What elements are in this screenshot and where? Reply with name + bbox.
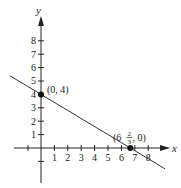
svg-text:2: 2 [128, 130, 132, 138]
svg-text:5: 5 [106, 152, 111, 163]
x-intercept-label: (6 2 3 , 0) [113, 130, 146, 146]
svg-text:6: 6 [119, 152, 124, 163]
y-intercept-point [38, 91, 44, 97]
svg-text:6: 6 [31, 62, 36, 73]
y-tick-labels: 1 2 3 4 5 6 7 8 [31, 35, 36, 140]
line-graph: x y 1 2 3 4 5 6 7 8 1 2 3 [0, 0, 181, 188]
svg-text:7: 7 [31, 49, 36, 60]
svg-text:3: 3 [128, 138, 132, 146]
y-axis-arrow-icon [38, 16, 44, 26]
x-tick-labels: 1 2 3 4 5 6 7 8 [52, 152, 151, 163]
svg-text:3: 3 [79, 152, 84, 163]
svg-text:3: 3 [31, 102, 36, 113]
svg-text:2: 2 [31, 116, 36, 127]
svg-text:2: 2 [65, 152, 70, 163]
svg-text:5: 5 [31, 75, 36, 86]
svg-text:1: 1 [52, 152, 57, 163]
svg-text:7: 7 [132, 152, 137, 163]
svg-text:, 0): , 0) [133, 132, 146, 144]
y-axis-label: y [35, 4, 41, 16]
y-intercept-label: (0, 4) [47, 84, 69, 96]
svg-text:(6: (6 [113, 132, 121, 144]
svg-text:4: 4 [92, 152, 97, 163]
x-axis-arrow-icon [160, 145, 170, 151]
svg-text:8: 8 [31, 35, 36, 46]
x-axis-label: x [171, 142, 177, 154]
svg-text:1: 1 [31, 129, 36, 140]
